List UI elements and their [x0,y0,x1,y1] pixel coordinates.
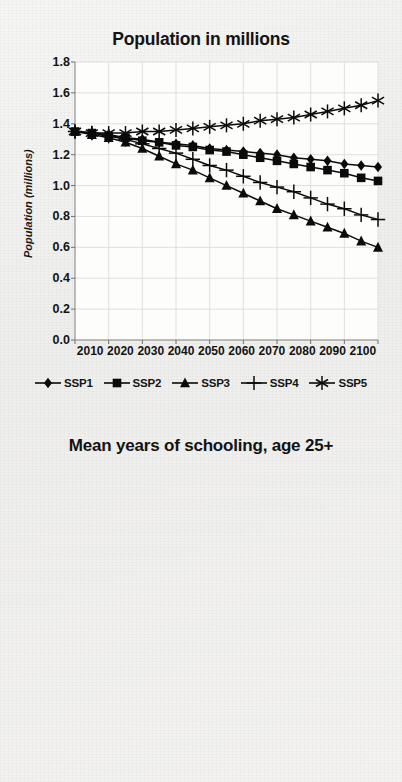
legend-item-ssp5[interactable]: SSP5 [309,376,367,390]
y-tick-label: 1.0 [53,179,70,193]
y-tick-label: 0.2 [53,302,70,316]
x-tick-label: 2050 [196,344,226,358]
y-tick-label: 0.0 [53,333,70,347]
diamond-marker-icon [35,376,61,390]
y-tick-label: 0.6 [53,240,70,254]
x-tick-label: 2090 [317,344,347,358]
series-layer-population [75,62,378,340]
chart-title-population: Population in millions [0,29,402,50]
x-tick-label: 2020 [105,344,135,358]
legend-item-ssp4[interactable]: SSP4 [241,376,299,390]
triangle-marker-icon [172,376,198,390]
chart-panel-population: Population in millions Population (milli… [0,0,402,400]
x-tick-label: 2040 [166,344,196,358]
legend-item-ssp3[interactable]: SSP3 [172,376,230,390]
y-tick-label: 1.2 [53,148,70,162]
asterisk-marker-icon [309,376,335,390]
y-tick-label: 0.4 [53,271,70,285]
legend-label: SSP1 [64,377,93,389]
legend-item-ssp1[interactable]: SSP1 [35,376,93,390]
legend-item-ssp2[interactable]: SSP2 [104,376,162,390]
plus-marker-icon [241,376,267,390]
legend-label: SSP2 [133,377,162,389]
x-tick-label: 2060 [226,344,256,358]
y-tick-label: 1.8 [53,55,70,69]
square-marker-icon [104,376,130,390]
x-tick-label: 2080 [287,344,317,358]
x-tick-label: 2010 [75,344,105,358]
chart-legend: SSP1SSP2SSP3SSP4SSP5 [0,376,402,390]
y-tick-label: 0.8 [53,209,70,223]
legend-label: SSP4 [270,377,299,389]
y-tick-label: 1.6 [53,86,70,100]
x-tick-label: 2100 [348,344,378,358]
legend-label: SSP3 [201,377,230,389]
plot-area-population [75,62,378,340]
x-axis-ticks-population: 2010202020302040205020602070208020902100 [75,344,378,358]
chart-panel-schooling: Mean years of schooling, age 25+ Mean ye… [0,400,402,782]
y-axis-ticks-population: 1.81.61.41.21.00.80.60.40.20.0 [28,62,70,340]
series-ssp5 [69,94,384,140]
chart-title-schooling: Mean years of schooling, age 25+ [0,436,402,456]
x-tick-label: 2030 [136,344,166,358]
legend-label: SSP5 [338,377,367,389]
x-tick-label: 2070 [257,344,287,358]
y-tick-label: 1.4 [53,117,70,131]
